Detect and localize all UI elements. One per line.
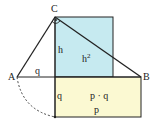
dashed-arc <box>17 77 55 117</box>
label-q-side: q <box>57 90 62 101</box>
point-label-c: C <box>51 3 58 14</box>
label-q-top: q <box>35 65 40 76</box>
label-h: h <box>58 44 63 55</box>
height-theorem-diagram: C A B h h2 q q p · q p <box>0 0 154 129</box>
label-p-times-q: p · q <box>90 90 108 101</box>
arc-end-dot <box>54 116 56 118</box>
label-p: p <box>94 104 99 115</box>
point-label-b: B <box>143 71 150 82</box>
right-angle-dot-icon <box>55 19 57 21</box>
point-label-a: A <box>8 71 16 82</box>
square-h-squared <box>55 17 113 77</box>
